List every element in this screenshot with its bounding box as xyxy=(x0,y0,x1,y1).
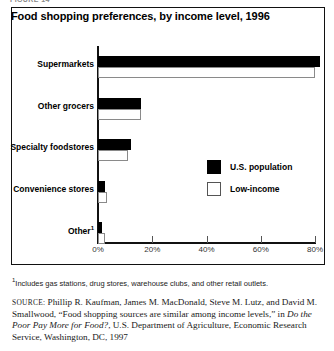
source-text-part1: Phillip R. Kaufman, James M. MacDonald, … xyxy=(12,297,317,319)
legend-swatch-icon-low-income xyxy=(207,182,221,196)
figure-caption: FIGURE 14 xyxy=(10,0,50,3)
legend-swatch-icon-us-population xyxy=(207,160,221,174)
source-label: SOURCE: xyxy=(12,298,45,307)
chart-legend: U.S. population Low-income xyxy=(207,158,292,202)
footnote: 1Includes gas stations, drug stores, war… xyxy=(12,277,268,288)
legend-label-low-income: Low-income xyxy=(230,184,280,194)
legend-label-us-population: U.S. population xyxy=(230,162,292,172)
legend-item-low-income: Low-income xyxy=(207,180,292,197)
source-citation: SOURCE: Phillip R. Kaufman, James M. Mac… xyxy=(12,297,324,343)
chart-panel xyxy=(11,7,325,265)
chart-title: Food shopping preferences, by income lev… xyxy=(11,10,270,22)
footnote-text: Includes gas stations, drug stores, ware… xyxy=(15,279,268,288)
legend-item-us-population: U.S. population xyxy=(207,158,292,175)
